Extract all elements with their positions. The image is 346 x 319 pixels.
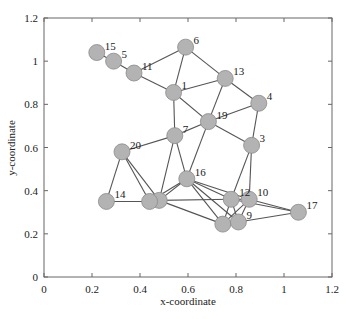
node-6 <box>178 39 194 55</box>
plot-frame <box>44 18 332 277</box>
y-tick-label: 1.2 <box>24 12 38 24</box>
node-label: 14 <box>114 188 126 200</box>
node-label: 10 <box>257 186 269 198</box>
node-label: 17 <box>306 199 318 211</box>
node-17 <box>290 204 306 220</box>
edge <box>159 199 231 200</box>
node-18 <box>142 193 158 209</box>
x-tick-label: 0 <box>41 283 47 295</box>
node-label: 13 <box>233 65 245 77</box>
node-15 <box>89 45 105 61</box>
node-label: 15 <box>105 40 117 52</box>
node-label: 9 <box>246 209 252 221</box>
node-12 <box>223 191 239 207</box>
node-8 <box>215 216 231 232</box>
node-label: 4 <box>267 90 273 102</box>
edge <box>122 152 150 202</box>
node-label: 19 <box>216 109 228 121</box>
x-axis-ticks: 00.20.40.60.811.2 <box>41 18 339 295</box>
x-tick-label: 0.2 <box>85 283 99 295</box>
nodes-layer <box>89 39 307 232</box>
node-19 <box>200 114 216 130</box>
y-tick-label: 0 <box>33 271 39 283</box>
x-axis-label: x-coordinate <box>160 295 216 307</box>
node-16 <box>179 171 195 187</box>
node-label: 11 <box>142 60 153 72</box>
node-14 <box>98 193 114 209</box>
node-1 <box>166 84 182 100</box>
x-tick-label: 0.4 <box>133 283 147 295</box>
node-label: 20 <box>130 139 142 151</box>
y-tick-label: 0.2 <box>24 228 38 240</box>
x-tick-label: 1 <box>281 283 287 295</box>
node-label: 12 <box>239 186 250 198</box>
node-3 <box>244 137 260 153</box>
network-plot: 134567910111213141516171920 00.20.40.60.… <box>0 0 346 319</box>
node-label: 5 <box>122 48 128 60</box>
x-tick-label: 0.8 <box>229 283 243 295</box>
node-label: 1 <box>182 79 188 91</box>
node-20 <box>114 144 130 160</box>
node-13 <box>217 70 233 86</box>
node-5 <box>106 53 122 69</box>
x-tick-label: 0.6 <box>181 283 195 295</box>
node-label: 7 <box>183 123 189 135</box>
x-tick-label: 1.2 <box>325 283 339 295</box>
y-tick-label: 1 <box>33 55 39 67</box>
node-4 <box>251 95 267 111</box>
node-9 <box>230 214 246 230</box>
y-tick-label: 0.4 <box>24 185 38 197</box>
node-label: 3 <box>260 132 266 144</box>
node-11 <box>126 65 142 81</box>
y-tick-label: 0.6 <box>24 142 38 154</box>
node-7 <box>167 128 183 144</box>
node-label: 6 <box>194 34 200 46</box>
y-tick-label: 0.8 <box>24 98 38 110</box>
y-axis-label: y-coordinate <box>5 120 17 176</box>
edge <box>122 152 159 201</box>
node-label: 16 <box>195 166 207 178</box>
